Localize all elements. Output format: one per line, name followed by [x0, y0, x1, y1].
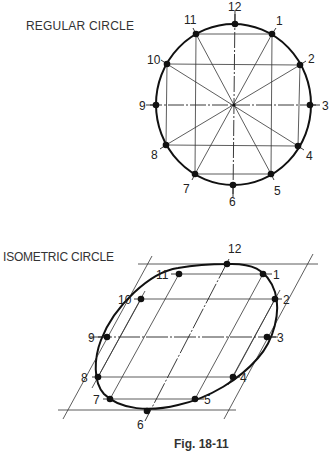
reg-label-11: 11 [184, 13, 197, 27]
reg-label-6: 6 [229, 195, 236, 209]
iso-label-3: 3 [277, 331, 284, 345]
reg-label-2: 2 [308, 52, 315, 66]
reg-label-4: 4 [306, 149, 313, 163]
iso-label-12: 12 [228, 242, 242, 256]
reg-label-9: 9 [139, 99, 146, 113]
reg-label-10: 10 [147, 53, 161, 67]
iso-label-4: 4 [240, 371, 247, 385]
iso-label-10: 10 [118, 293, 132, 307]
iso-label-2: 2 [283, 293, 290, 307]
iso-label-1: 1 [273, 268, 280, 282]
reg-label-3: 3 [322, 99, 329, 113]
iso-label-7: 7 [93, 393, 100, 407]
center-point [232, 103, 235, 106]
iso-label-5: 5 [204, 393, 211, 407]
figure-caption: Fig. 18-11 [174, 437, 229, 451]
iso-slant-center-line [145, 259, 229, 421]
isometric-ellipse-outline [96, 264, 277, 409]
regular-circle-title: REGULAR CIRCLE [26, 19, 134, 33]
reg-label-12: 12 [228, 0, 242, 14]
reg-label-7: 7 [183, 182, 190, 196]
iso-label-6: 6 [137, 418, 144, 432]
reg-label-5: 5 [274, 184, 281, 198]
iso-label-9: 9 [88, 331, 95, 345]
iso-points [95, 261, 279, 415]
iso-label-8: 8 [81, 371, 88, 385]
reg-label-1: 1 [276, 14, 283, 28]
regular-circle-diagram: 12 1 2 3 4 5 6 7 8 9 10 11 [139, 0, 329, 209]
isometric-circle-title: ISOMETRIC CIRCLE [3, 250, 114, 264]
iso-label-11: 11 [156, 268, 169, 282]
isometric-circle-diagram: 12 1 2 3 4 5 6 7 8 9 10 11 [58, 242, 318, 432]
reg-label-8: 8 [151, 148, 158, 162]
